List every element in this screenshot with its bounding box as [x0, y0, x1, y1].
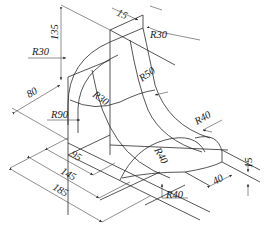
dim-r40-center: R40	[152, 145, 171, 167]
dim-135: 135	[49, 24, 60, 40]
dim-15-right: 15	[243, 158, 254, 169]
dim-15-top: 15	[115, 7, 129, 21]
dim-r40-bottom: R40	[165, 189, 184, 200]
dim-185: 185	[51, 181, 70, 198]
dim-r90: R90	[50, 109, 69, 120]
dim-r30-left: R30	[31, 46, 50, 57]
part-outline	[68, 15, 260, 220]
isometric-drawing: 135 15 R30 R30 R30 R50 80 R90 R40 R40 R4…	[0, 0, 277, 233]
dim-80: 80	[25, 85, 40, 100]
dimension-lines	[10, 5, 248, 222]
dim-r40-right: R40	[192, 108, 214, 127]
dimension-labels: 135 15 R30 R30 R30 R50 80 R90 R40 R40 R4…	[25, 7, 255, 200]
dim-r30-top: R30	[149, 29, 168, 40]
dim-95: 95	[69, 148, 84, 163]
dim-145: 145	[59, 165, 78, 182]
